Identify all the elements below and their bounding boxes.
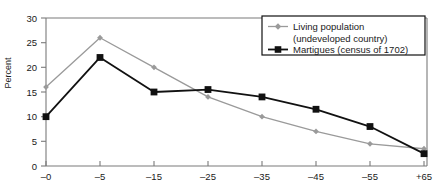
- y-tick-label-25: 25: [26, 37, 37, 48]
- data-point-square-marker: [97, 54, 104, 61]
- data-point-square-marker: [151, 89, 158, 96]
- data-point-diamond-marker: [367, 141, 373, 147]
- data-point-square-marker: [421, 150, 428, 157]
- x-tick-label-4: –35: [254, 171, 270, 182]
- series-line: [46, 57, 424, 153]
- y-tick-label-0: 0: [32, 161, 37, 172]
- legend-label-gray-line1: Living population: [293, 21, 364, 32]
- legend-label-gray-line2: (undeveloped country): [293, 33, 388, 44]
- x-tick-label-6: –55: [362, 171, 378, 182]
- data-point-square-marker: [43, 113, 50, 120]
- legend-marker-square-icon: [275, 46, 282, 53]
- line-chart-plot: 0 5 10 15 20 25 30 –0 –5 –15 –25 –35 –45: [0, 0, 441, 190]
- x-tick-label-0: –0: [41, 171, 52, 182]
- chart-figure: Percent 0 5 10 15 20 25 30: [0, 0, 441, 190]
- data-point-square-marker: [313, 106, 320, 113]
- y-tick-label-20: 20: [26, 62, 37, 73]
- x-axis-tick-labels: –0 –5 –15 –25 –35 –45 –55 +65: [41, 171, 432, 182]
- x-tick-label-2: –15: [146, 171, 162, 182]
- chart-legend: Living population (undeveloped country) …: [262, 16, 425, 55]
- data-point-diamond-marker: [151, 64, 157, 70]
- y-tick-label-5: 5: [32, 136, 37, 147]
- y-tick-label-30: 30: [26, 13, 37, 24]
- x-tick-label-7: +65: [416, 171, 432, 182]
- y-tick-label-15: 15: [26, 87, 37, 98]
- x-tick-label-3: –25: [200, 171, 216, 182]
- data-point-square-marker: [259, 94, 266, 101]
- data-point-diamond-marker: [313, 129, 319, 135]
- x-tick-label-5: –45: [308, 171, 324, 182]
- y-axis-ticks: [41, 18, 46, 166]
- data-point-square-marker: [205, 86, 212, 93]
- y-axis-tick-labels: 0 5 10 15 20 25 30: [26, 13, 37, 172]
- y-tick-label-10: 10: [26, 111, 37, 122]
- data-point-square-marker: [367, 123, 374, 130]
- legend-label-black: Martigues (census of 1702): [293, 44, 408, 55]
- x-axis-ticks: [46, 161, 424, 166]
- x-tick-label-1: –5: [95, 171, 106, 182]
- data-point-diamond-marker: [259, 114, 265, 120]
- data-point-diamond-marker: [205, 94, 211, 100]
